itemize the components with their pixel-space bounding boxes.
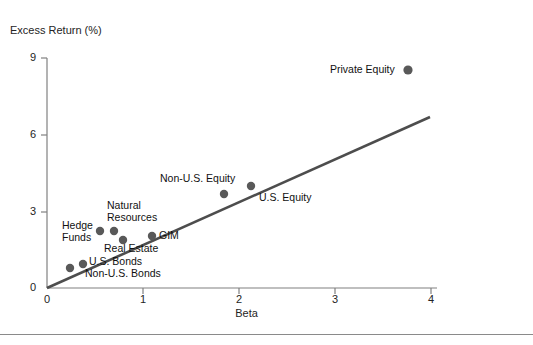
label-private-equity: Private Equity	[330, 64, 395, 76]
y-tick-label-6: 6	[14, 128, 36, 140]
data-point-natural-resources	[110, 227, 118, 235]
data-point-non-us-bonds	[66, 264, 74, 272]
data-point-gim	[148, 232, 156, 240]
x-tick-label-3: 3	[320, 293, 350, 305]
label-us-equity: U.S. Equity	[259, 192, 312, 204]
label-non-us-equity: Non-U.S. Equity	[160, 173, 235, 185]
x-tick-label-2: 2	[224, 293, 254, 305]
data-point-hedge-funds	[96, 227, 104, 235]
label-natural-resources: Natural Resources	[107, 200, 157, 223]
label-us-bonds: U.S. Bonds	[89, 256, 142, 268]
data-point-private-equity	[403, 65, 412, 74]
y-tick-label-0: 0	[14, 281, 36, 293]
x-tick-label-1: 1	[128, 293, 158, 305]
x-tick-label-4: 4	[416, 293, 446, 305]
x-axis-title: Beta	[0, 307, 533, 319]
label-gim: GIM	[159, 230, 179, 242]
scatter-chart: Excess Return (%) 9 6 3 0 0 1 2 3 4	[0, 0, 533, 345]
y-tick-label-9: 9	[14, 51, 36, 63]
plot-area	[0, 0, 533, 345]
label-hedge-funds-line2: Funds	[62, 232, 93, 244]
label-natural-resources-line2: Resources	[107, 212, 157, 224]
y-tick-label-3: 3	[14, 205, 36, 217]
data-point-non-us-equity	[220, 190, 228, 198]
x-tick-label-0: 0	[32, 293, 62, 305]
x-axis-title-text: Beta	[235, 307, 258, 319]
data-point-us-equity	[247, 182, 255, 190]
bottom-divider	[0, 334, 533, 335]
label-hedge-funds-line1: Hedge	[62, 220, 93, 232]
label-hedge-funds: Hedge Funds	[62, 220, 93, 243]
label-real-estate: Real Estate	[104, 243, 158, 255]
label-natural-resources-line1: Natural	[107, 200, 157, 212]
label-non-us-bonds: Non-U.S. Bonds	[85, 268, 161, 280]
